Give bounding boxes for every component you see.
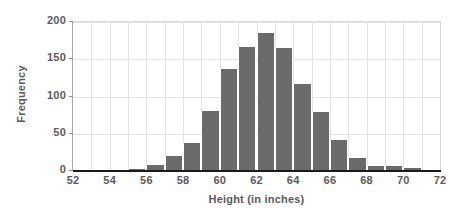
y-tick-label: 200 <box>28 14 66 26</box>
y-axis-title: Frequency <box>15 34 27 154</box>
x-tick-label: 66 <box>310 174 350 186</box>
x-tick-label: 56 <box>126 174 166 186</box>
y-tick-label: 100 <box>28 89 66 101</box>
x-tick-label: 64 <box>273 174 313 186</box>
histogram-bar <box>348 158 366 171</box>
x-tick-label: 70 <box>383 174 423 186</box>
x-tick-label: 72 <box>420 174 460 186</box>
y-tick-mark <box>69 133 73 134</box>
histogram-bar <box>183 143 201 171</box>
x-axis-title: Height (in inches) <box>73 193 440 205</box>
histogram-bar <box>275 48 293 171</box>
histogram-bar <box>312 112 330 171</box>
plot-area <box>73 21 441 171</box>
histogram-bar <box>201 111 219 171</box>
x-tick-label: 68 <box>347 174 387 186</box>
bars-layer <box>73 22 440 171</box>
y-tick-mark <box>69 21 73 22</box>
x-axis-line <box>73 170 441 172</box>
y-tick-label: 50 <box>28 126 66 138</box>
x-tick-label: 58 <box>163 174 203 186</box>
histogram-bar <box>330 140 348 171</box>
x-tick-label: 62 <box>237 174 277 186</box>
histogram-bar <box>165 156 183 171</box>
histogram-bar <box>220 69 238 171</box>
y-tick-mark <box>69 96 73 97</box>
x-tick-label: 60 <box>200 174 240 186</box>
histogram-chart: 5254565860626466687072 050100150200 Heig… <box>0 0 476 220</box>
y-tick-label: 0 <box>28 163 66 175</box>
histogram-bar <box>238 47 256 171</box>
histogram-bar <box>257 33 275 171</box>
x-tick-label: 54 <box>90 174 130 186</box>
y-tick-mark <box>69 58 73 59</box>
y-tick-mark <box>69 170 73 171</box>
x-tick-label: 52 <box>53 174 93 186</box>
y-tick-label: 150 <box>28 51 66 63</box>
histogram-bar <box>293 84 311 171</box>
